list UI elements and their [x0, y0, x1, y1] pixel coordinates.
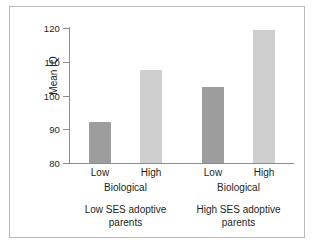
- y-tick-label: 90: [49, 124, 60, 135]
- y-tick-mark: [63, 129, 69, 130]
- bar-0[interactable]: [89, 122, 111, 164]
- panel-label-0: Low SES adoptiveparents: [66, 204, 186, 229]
- panel-label-line2: parents: [66, 217, 186, 230]
- panel-label-line1: High SES adoptive: [179, 204, 299, 217]
- x-tick-label-3: High: [234, 167, 294, 178]
- plot-area: 1201101009080: [69, 28, 293, 163]
- panel-label-line2: parents: [179, 217, 299, 230]
- group-label-1: Biological: [194, 182, 284, 193]
- y-tick-label: 80: [49, 158, 60, 169]
- y-tick-mark: [63, 62, 69, 63]
- panel-label-1: High SES adoptiveparents: [179, 204, 299, 229]
- y-tick-label: 110: [45, 56, 60, 67]
- bar-3[interactable]: [253, 30, 275, 163]
- x-tick-label-1: High: [121, 167, 181, 178]
- panel-label-line1: Low SES adoptive: [66, 204, 186, 217]
- figure: Mean IQ 1201101009080 LowHighLowHigh Bio…: [0, 0, 315, 244]
- bar-2[interactable]: [202, 87, 224, 163]
- y-tick-label: 120: [44, 23, 60, 34]
- y-tick-mark: [63, 28, 69, 29]
- y-tick-mark: [63, 163, 69, 164]
- y-tick-mark: [63, 96, 69, 97]
- x-axis-line: [69, 163, 294, 164]
- group-label-0: Biological: [81, 182, 171, 193]
- y-tick-label: 100: [44, 90, 60, 101]
- bar-1[interactable]: [140, 70, 162, 163]
